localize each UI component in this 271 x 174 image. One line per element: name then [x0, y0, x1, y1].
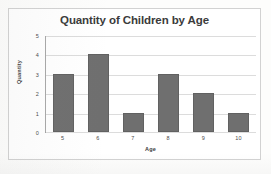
bar-age-9[interactable]: [193, 93, 215, 132]
bar-slot: [81, 36, 116, 132]
bar-slot: [46, 36, 81, 132]
bar-series: [46, 36, 256, 132]
bar-slot: [116, 36, 151, 132]
bar-age-7[interactable]: [123, 113, 145, 132]
x-axis-tick-9: 9: [186, 135, 221, 141]
bar-slot: [151, 36, 186, 132]
y-axis-tick-1: 1: [36, 111, 39, 117]
y-axis-tick-labels: 543210: [9, 36, 43, 133]
bar-age-8[interactable]: [158, 74, 180, 132]
x-axis-tick-10: 10: [221, 135, 256, 141]
chart-title: Quantity of Children by Age: [9, 14, 260, 26]
y-axis-tick-3: 3: [36, 72, 39, 78]
plot-area: [45, 36, 256, 133]
x-axis-tick-7: 7: [115, 135, 150, 141]
bar-slot: [186, 36, 221, 132]
x-axis-tick-8: 8: [151, 135, 186, 141]
x-axis-tick-labels: 5678910: [45, 135, 256, 141]
y-axis-tick-2: 2: [36, 91, 39, 97]
bar-age-10[interactable]: [228, 113, 250, 132]
bar-age-6[interactable]: [88, 54, 110, 132]
x-axis-tick-5: 5: [45, 135, 80, 141]
y-axis-tick-4: 4: [36, 52, 39, 58]
bar-slot: [221, 36, 256, 132]
gridline-0: [46, 132, 256, 133]
bar-age-5[interactable]: [53, 74, 75, 132]
chart-container: Quantity of Children by Age Quantity 543…: [8, 8, 261, 160]
y-axis-tick-0: 0: [36, 130, 39, 136]
x-axis-tick-6: 6: [80, 135, 115, 141]
x-axis-title: Age: [45, 146, 256, 152]
y-axis-tick-5: 5: [36, 33, 39, 39]
